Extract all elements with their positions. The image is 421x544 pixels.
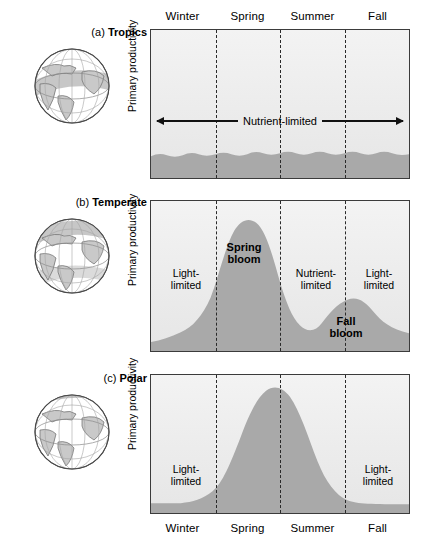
season-header: Winter Spring Summer Fall <box>150 6 410 26</box>
light-limited-fall-polar: Light- limited <box>349 463 407 487</box>
light-limited-winter-line1-polar: Light- <box>157 463 215 475</box>
plot-area-tropics: Nutrient-limited <box>150 29 410 179</box>
y-axis-label-tropics: Primary productivity <box>124 56 140 156</box>
panel-tropics: (a) Tropics <box>0 26 421 186</box>
y-axis-text-temperate: Primary productivity <box>126 270 138 286</box>
season-label-summer-top: Summer <box>280 6 345 26</box>
globe-temperate <box>26 210 118 306</box>
panel-temperate: (b) Temperate <box>0 196 421 362</box>
plot-area-temperate: Light- limited Spring bloom Nutrient- li… <box>150 200 410 352</box>
light-limited-winter-temperate: Light- limited <box>157 267 215 291</box>
nutrient-limited-line1-temperate: Nutrient- <box>285 267 347 279</box>
divider-winter-spring-tropics <box>216 30 217 178</box>
season-label-spring-bottom: Spring <box>215 518 280 538</box>
globe-temperate-icon <box>26 210 118 302</box>
light-limited-winter-line1-temperate: Light- <box>157 267 215 279</box>
light-limited-winter-polar: Light- limited <box>157 463 215 487</box>
season-label-fall-bottom: Fall <box>345 518 410 538</box>
divider-summer-fall-polar <box>345 375 346 513</box>
panel-name-b: Temperate <box>92 196 147 208</box>
light-limited-fall-line1-temperate: Light- <box>351 267 407 279</box>
y-axis-label-temperate: Primary productivity <box>124 230 140 330</box>
light-limited-winter-line2-temperate: limited <box>157 279 215 291</box>
divider-spring-summer-temperate <box>280 201 281 351</box>
light-limited-fall-line2-temperate: limited <box>351 279 407 291</box>
nutrient-limited-arrow-tropics: Nutrient-limited <box>157 114 403 128</box>
globe-polar-icon <box>26 386 118 478</box>
divider-spring-summer-polar <box>280 375 281 513</box>
divider-winter-spring-temperate <box>216 201 217 351</box>
season-label-winter-bottom: Winter <box>150 518 215 538</box>
light-limited-winter-line2-polar: limited <box>157 475 215 487</box>
panel-tag-a: (a) <box>91 26 104 38</box>
globe-tropics-icon <box>26 40 118 132</box>
nutrient-limited-line2-temperate: limited <box>285 279 347 291</box>
panel-tag-b: (b) <box>76 196 89 208</box>
fall-bloom-line2: bloom <box>315 327 377 339</box>
fall-bloom-label: Fall bloom <box>315 315 377 339</box>
divider-spring-summer-tropics <box>280 30 281 178</box>
season-label-winter-top: Winter <box>150 6 215 26</box>
spring-bloom-line2: bloom <box>213 253 275 265</box>
season-footer: Winter Spring Summer Fall <box>150 518 410 538</box>
y-axis-text-polar: Primary productivity <box>126 434 138 450</box>
season-label-fall-top: Fall <box>345 6 410 26</box>
season-label-spring-top: Spring <box>215 6 280 26</box>
panel-polar: (c) Polar <box>0 372 421 518</box>
globe-tropics <box>26 40 118 136</box>
panel-title-tropics: (a) Tropics <box>91 26 147 38</box>
fall-bloom-line1: Fall <box>315 315 377 327</box>
nutrient-limited-temperate: Nutrient- limited <box>285 267 347 291</box>
panel-tag-c: (c) <box>104 372 117 384</box>
nutrient-limited-label-tropics: Nutrient-limited <box>238 115 322 127</box>
figure-root: Winter Spring Summer Fall (a) Tropics <box>0 0 421 544</box>
y-axis-label-polar: Primary productivity <box>124 394 140 494</box>
season-label-summer-bottom: Summer <box>280 518 345 538</box>
divider-winter-spring-polar <box>216 375 217 513</box>
light-limited-fall-temperate: Light- limited <box>351 267 407 291</box>
divider-summer-fall-tropics <box>345 30 346 178</box>
arrow-line-left-tropics <box>157 120 238 121</box>
light-limited-fall-line2-polar: limited <box>349 475 407 487</box>
globe-polar <box>26 386 118 482</box>
spring-bloom-label: Spring bloom <box>213 241 275 265</box>
spring-bloom-line1: Spring <box>213 241 275 253</box>
light-limited-fall-line1-polar: Light- <box>349 463 407 475</box>
y-axis-text-tropics: Primary productivity <box>126 96 138 112</box>
plot-area-polar: Light- limited Light- limited <box>150 374 410 514</box>
arrow-line-right-tropics <box>322 120 403 121</box>
